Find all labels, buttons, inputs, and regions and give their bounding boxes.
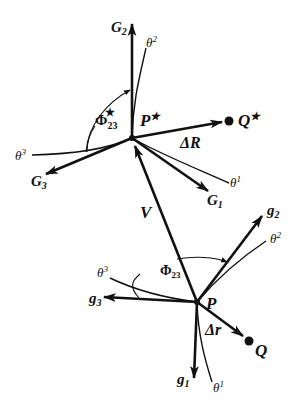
Q-star-label: Q★ (238, 110, 262, 130)
theta1-curve-reference (197, 302, 212, 382)
P-star-label: P★ (139, 110, 162, 130)
V-label: V (140, 203, 153, 222)
deformation-diagram: P★ Q★ ΔR G2 θ2 θ3 G3 Φ23★ G1 θ1 V g2 θ2 … (0, 0, 299, 413)
theta2-label-deformed: θ2 (146, 34, 157, 50)
theta1-label-reference: θ1 (213, 379, 224, 395)
P-star-point (129, 135, 135, 141)
theta3-curve-deformed (32, 138, 132, 155)
deformed-frame (32, 24, 234, 191)
G2-label: G2 (111, 19, 127, 37)
delta-r-label: Δr (204, 321, 222, 338)
V-vector (135, 146, 197, 302)
Q-star-point (225, 117, 234, 126)
phi23-label: Φ23 (160, 263, 181, 280)
theta1-label-deformed: θ1 (230, 174, 241, 190)
reference-frame (87, 126, 266, 382)
phi23-leader (133, 274, 140, 298)
P-label: P (205, 294, 217, 313)
g1-vector (194, 302, 197, 378)
g2-label: g2 (266, 202, 280, 220)
phi23-arc (177, 257, 227, 262)
theta2-label-reference: θ2 (270, 230, 281, 246)
g1-label: g1 (176, 371, 190, 389)
Q-label: Q (255, 341, 267, 360)
G1-label: G1 (207, 192, 223, 210)
theta3-label-reference: θ3 (97, 264, 108, 280)
g2-vector (197, 216, 262, 302)
theta2-curve-reference (197, 241, 266, 302)
G3-label: G3 (31, 173, 47, 191)
g3-label: g3 (88, 290, 102, 308)
phi23-star-label: Φ23★ (95, 106, 117, 131)
Q-point (245, 337, 254, 346)
delta-R-label: ΔR (179, 134, 201, 151)
P-point (194, 299, 200, 305)
theta3-label-deformed: θ3 (15, 147, 26, 163)
